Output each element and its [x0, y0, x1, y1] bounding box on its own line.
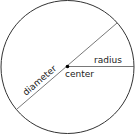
center-label: center — [65, 69, 94, 79]
circle-diagram: radius center diameter — [0, 0, 136, 140]
center-dot — [66, 65, 70, 69]
diameter-label: diameter — [21, 63, 59, 97]
radius-label: radius — [94, 55, 122, 65]
